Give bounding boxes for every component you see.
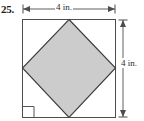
geometry-figure-25: 25. 4 in. 4 in. bbox=[0, 0, 144, 121]
right-dimension-line bbox=[119, 20, 128, 117]
right-dimension-label: 4 in. bbox=[120, 58, 138, 68]
top-dimension-label: 4 in. bbox=[55, 2, 73, 12]
